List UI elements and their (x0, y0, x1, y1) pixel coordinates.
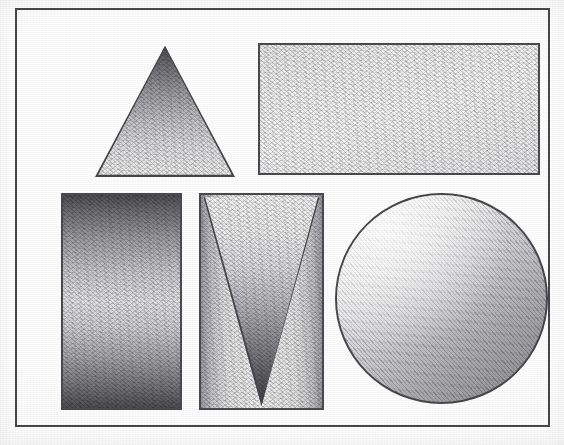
shape-rectangle-top[interactable] (258, 43, 540, 175)
triangle-down-fill (201, 195, 322, 408)
shape-triangle-down[interactable] (201, 195, 322, 408)
pencil-texture (337, 195, 546, 402)
shape-rectangle-middle[interactable] (199, 193, 324, 410)
pencil-texture (260, 45, 538, 173)
triangle-up-fill (95, 46, 235, 177)
shape-rectangle-left[interactable] (61, 193, 182, 410)
shape-circle[interactable] (335, 193, 548, 404)
pencil-texture (201, 195, 322, 408)
artboard (0, 0, 564, 445)
pencil-texture (95, 46, 235, 177)
circle-highlight (335, 193, 508, 356)
shape-triangle-up[interactable] (95, 46, 235, 177)
pencil-texture (63, 195, 180, 408)
border-frame (15, 8, 550, 427)
